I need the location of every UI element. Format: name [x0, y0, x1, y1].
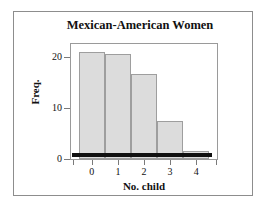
bar — [79, 52, 105, 159]
y-axis-tick — [64, 57, 70, 58]
x-axis-tick — [73, 160, 74, 165]
histogram-figure: Mexican-American Women Freq. No. child 0… — [0, 0, 267, 207]
x-axis-tick — [216, 160, 217, 165]
x-axis-tick-label: 4 — [188, 166, 204, 177]
bar — [131, 74, 157, 159]
x-axis-tick — [118, 160, 119, 165]
x-axis-tick — [144, 160, 145, 165]
plot-area — [71, 44, 217, 159]
x-axis-tick-label: 3 — [162, 166, 178, 177]
y-axis-title: Freq. — [29, 79, 41, 104]
x-axis-tick — [196, 160, 197, 165]
x-axis-title: No. child — [70, 180, 218, 192]
chart-title: Mexican-American Women — [40, 18, 240, 33]
y-axis-tick-label: 0 — [36, 154, 62, 164]
y-axis-tick — [64, 108, 70, 109]
axis-baseline — [72, 153, 212, 157]
x-axis-tick — [170, 160, 171, 165]
y-axis-tick-label: 10 — [36, 103, 62, 113]
x-axis-tick-label: 2 — [136, 166, 152, 177]
x-axis-tick-label: 1 — [110, 166, 126, 177]
y-axis-tick — [64, 159, 70, 160]
x-axis-tick-label: 0 — [84, 166, 100, 177]
bar — [105, 54, 131, 159]
y-axis-tick-label: 20 — [36, 52, 62, 62]
x-axis-tick — [92, 160, 93, 165]
